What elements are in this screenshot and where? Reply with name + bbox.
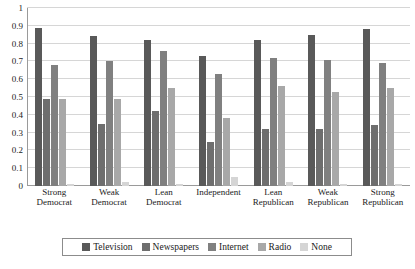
- legend-swatch-icon: [82, 243, 90, 251]
- legend-item[interactable]: Internet: [208, 242, 249, 252]
- x-axis-tick-label-line: Strong: [355, 187, 410, 197]
- legend-swatch-icon: [142, 243, 150, 251]
- bar[interactable]: [231, 177, 238, 186]
- y-axis-tick-label: 0.8: [12, 39, 23, 48]
- x-axis-tick-label: LeanDemocrat: [136, 186, 191, 205]
- legend-swatch-icon: [208, 243, 216, 251]
- bar[interactable]: [379, 63, 386, 186]
- bar[interactable]: [59, 99, 66, 186]
- bar[interactable]: [316, 129, 323, 186]
- bar[interactable]: [152, 111, 159, 186]
- bar[interactable]: [207, 142, 214, 187]
- legend-label: Newspapers: [153, 242, 199, 252]
- x-axis-tick-label-line: Republican: [301, 197, 356, 207]
- x-axis-tick-label: Independent: [191, 186, 246, 205]
- x-axis-tick-label-line: Lean: [136, 187, 191, 197]
- legend-label: Radio: [269, 242, 292, 252]
- x-axis-tick-label: LeanRepublican: [246, 186, 301, 205]
- legend-item[interactable]: None: [300, 242, 332, 252]
- legend-label: Internet: [219, 242, 249, 252]
- y-axis: 00.10.20.30.40.50.60.70.80.91: [0, 0, 26, 205]
- bar[interactable]: [35, 28, 42, 186]
- bar[interactable]: [308, 35, 315, 186]
- bar-groups: [27, 8, 410, 186]
- y-axis-tick-label: 0: [19, 182, 24, 191]
- x-axis-tick-label: StrongDemocrat: [27, 186, 82, 205]
- bar[interactable]: [90, 36, 97, 186]
- y-axis-tick-label: 0.3: [12, 128, 23, 137]
- y-axis-tick-label: 1: [19, 4, 24, 13]
- legend-label: Television: [93, 242, 132, 252]
- plot-area: 00.10.20.30.40.50.60.70.80.91 StrongDemo…: [0, 0, 415, 205]
- plot-canvas: [27, 8, 410, 186]
- bar[interactable]: [371, 125, 378, 186]
- y-axis-tick-label: 0.9: [12, 21, 23, 30]
- bar[interactable]: [215, 74, 222, 186]
- x-axis: StrongDemocratWeakDemocratLeanDemocratIn…: [27, 186, 410, 205]
- bar[interactable]: [262, 129, 269, 186]
- bar[interactable]: [324, 60, 331, 186]
- x-axis-tick-label-line: Weak: [82, 187, 137, 197]
- bar[interactable]: [51, 65, 58, 186]
- bar[interactable]: [387, 88, 394, 186]
- x-axis-tick-label: WeakRepublican: [301, 186, 356, 205]
- y-axis-tick-label: 0.4: [12, 110, 23, 119]
- x-axis-tick-label-line: Lean: [246, 187, 301, 197]
- bar[interactable]: [114, 99, 121, 186]
- bar[interactable]: [199, 56, 206, 186]
- x-axis-tick-label-line: Republican: [355, 197, 410, 207]
- bar[interactable]: [160, 51, 167, 186]
- x-axis-tick-label-line: Republican: [246, 197, 301, 207]
- y-axis-tick-label: 0.1: [12, 164, 23, 173]
- bar[interactable]: [168, 88, 175, 186]
- bar-chart: 00.10.20.30.40.50.60.70.80.91 StrongDemo…: [0, 0, 415, 269]
- legend: TelevisionNewspapersInternetRadioNone: [62, 238, 352, 256]
- bar-group: [27, 8, 82, 186]
- bar-group: [246, 8, 301, 186]
- bar[interactable]: [270, 58, 277, 186]
- bar[interactable]: [278, 86, 285, 186]
- legend-label: None: [311, 242, 332, 252]
- bar[interactable]: [254, 40, 261, 186]
- legend-swatch-icon: [300, 243, 308, 251]
- y-axis-tick-label: 0.5: [12, 93, 23, 102]
- bar[interactable]: [332, 92, 339, 186]
- bar-group: [355, 8, 410, 186]
- x-axis-tick-label-line: Democrat: [82, 197, 137, 207]
- bar[interactable]: [43, 99, 50, 186]
- y-axis-tick-label: 0.2: [12, 146, 23, 155]
- bar-group: [136, 8, 191, 186]
- x-axis-tick-label-line: Democrat: [27, 197, 82, 207]
- legend-item[interactable]: Television: [82, 242, 132, 252]
- x-axis-tick-label: WeakDemocrat: [82, 186, 137, 205]
- x-axis-tick-label-line: Weak: [301, 187, 356, 197]
- bar[interactable]: [98, 124, 105, 186]
- bar[interactable]: [223, 118, 230, 186]
- y-axis-tick-label: 0.6: [12, 75, 23, 84]
- legend-swatch-icon: [258, 243, 266, 251]
- y-axis-tick-label: 0.7: [12, 57, 23, 66]
- legend-item[interactable]: Newspapers: [142, 242, 199, 252]
- bar-group: [191, 8, 246, 186]
- bar[interactable]: [106, 61, 113, 186]
- x-axis-tick-label-line: Strong: [27, 187, 82, 197]
- bar-group: [82, 8, 137, 186]
- bar[interactable]: [144, 40, 151, 186]
- x-axis-tick-label-line: Democrat: [136, 197, 191, 207]
- x-axis-tick-label-line: Independent: [191, 187, 246, 197]
- bar-group: [301, 8, 356, 186]
- x-axis-tick-label: StrongRepublican: [355, 186, 410, 205]
- legend-item[interactable]: Radio: [258, 242, 292, 252]
- bar[interactable]: [363, 29, 370, 186]
